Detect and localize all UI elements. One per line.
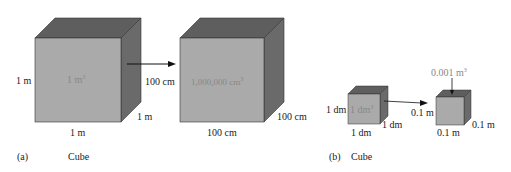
cube2-width-label: 100 cm [207, 128, 237, 138]
panel-b-caption: Cube [351, 152, 372, 162]
cube-b2-depth-label: 0.1 m [472, 120, 495, 130]
cube2-depth-label: 100 cm [277, 112, 307, 122]
cube1-volume-label: 1 m3 [67, 74, 85, 85]
cube-b2-volume-callout: 0.001 m3 [431, 67, 467, 78]
cube-diagram-graphics [0, 0, 511, 172]
cube-b1-depth-label: 1 dm [382, 120, 402, 130]
panel-a-label: (a) [17, 152, 28, 162]
cube1-height-label: 1 m [16, 76, 31, 86]
cube-100cm [180, 18, 284, 122]
cube1-depth-label: 1 m [137, 112, 152, 122]
panel-b-label: (b) [329, 152, 341, 162]
cube-b2-height-label: 0.1 m [411, 108, 434, 118]
arrow-a-label: 100 cm [145, 77, 175, 87]
conversion-arrow-b [384, 100, 428, 106]
cube-b1-volume-label: 1 dm3 [350, 104, 373, 115]
cube-1m [35, 18, 141, 122]
cube-0-1m [436, 90, 471, 125]
cube-b1-height-label: 1 dm [326, 105, 346, 115]
panel-a-caption: Cube [68, 152, 89, 162]
cube-b2-width-label: 0.1 m [437, 128, 460, 138]
cube-b1-width-label: 1 dm [351, 128, 371, 138]
cube1-width-label: 1 m [70, 128, 85, 138]
cube2-volume-label: 1,000,000 cm3 [191, 76, 243, 87]
